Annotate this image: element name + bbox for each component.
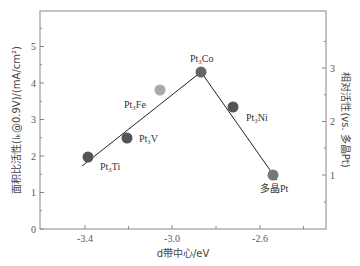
y-tick-1: 1 [31, 187, 36, 198]
x-tick-neg3.0: -3.0 [164, 233, 180, 244]
y-right-axis-title: 相对活性(vs. 多晶Pt) [340, 72, 352, 167]
y-right-tick-1: 1 [330, 170, 335, 181]
point-poly-pt [268, 170, 279, 181]
volcano-chart: 0 1 2 3 4 5 1 2 3 -3.4 -3.0 -2.6 d带中心/eV… [0, 0, 360, 266]
x-tick-neg3.4: -3.4 [77, 233, 93, 244]
label-pt3ni: Pt₃Ni [246, 112, 268, 123]
y-tick-5: 5 [31, 41, 36, 52]
y-axis-title: 面积比活性(iₖ@0.9V)/(mA/cm²) [10, 46, 22, 194]
plot-frame [40, 11, 326, 229]
y-right-tick-2: 2 [330, 116, 335, 127]
y-tick-3: 3 [31, 114, 36, 125]
y-tick-2: 2 [31, 151, 36, 162]
point-pt3ni [228, 102, 239, 113]
x-axis-title: d带中心/eV [157, 247, 210, 259]
right-y-axis [322, 42, 326, 203]
x-axis [85, 225, 304, 229]
label-pt3v: Pt₃V [139, 133, 159, 144]
point-pt3fe [155, 85, 166, 96]
point-pt3co [196, 67, 207, 78]
point-pt3ti [83, 152, 94, 163]
y-tick-4: 4 [31, 78, 36, 89]
y-tick-0: 0 [31, 224, 36, 235]
label-pt3fe: Pt₃Fe [124, 99, 146, 110]
label-poly-pt: 多晶Pt [260, 182, 289, 194]
label-pt3co: Pt₃Co [190, 53, 214, 64]
label-pt3ti: Pt₃Ti [100, 161, 121, 172]
x-tick-neg2.6: -2.6 [252, 233, 268, 244]
point-pt3v [122, 133, 133, 144]
left-y-axis [40, 28, 44, 229]
y-right-tick-3: 3 [330, 63, 335, 74]
